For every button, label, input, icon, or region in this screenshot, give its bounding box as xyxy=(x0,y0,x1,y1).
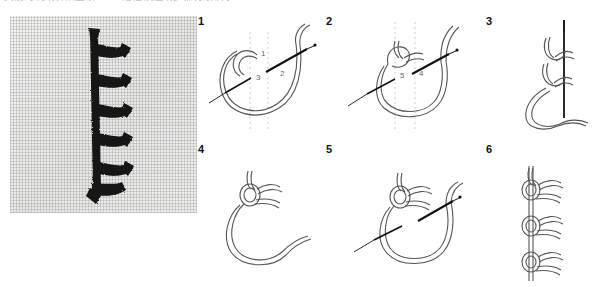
knot-body xyxy=(240,171,282,208)
diagram-step-5: 5 xyxy=(322,142,472,287)
needle-upper xyxy=(266,43,317,72)
knot-loops xyxy=(526,37,588,129)
thread-inner-loop xyxy=(233,51,257,76)
stitch-photo-thread xyxy=(10,16,197,213)
step-1-artwork: 1 2 3 xyxy=(195,14,325,140)
diagram-step-1: 1 xyxy=(195,14,325,140)
header-caption: 美丽的刺绣针法图解 —— 结粒锁边绣步骤分解演示 xyxy=(4,0,334,3)
thread-loop xyxy=(376,61,447,117)
diagram-step-3: 3 xyxy=(476,14,592,140)
step-5-artwork xyxy=(322,142,472,287)
knot-body xyxy=(387,41,424,67)
label-2: 2 xyxy=(280,69,285,78)
knot-1 xyxy=(522,168,563,203)
thread-tails xyxy=(295,24,310,45)
diagram-step-4: 4 xyxy=(190,142,320,287)
tutorial-page: 美丽的刺绣针法图解 —— 结粒锁边绣步骤分解演示 xyxy=(0,0,592,287)
knot-3 xyxy=(522,252,563,281)
step-4-artwork xyxy=(190,142,320,287)
label-1: 1 xyxy=(261,49,266,58)
thread-loop xyxy=(226,204,311,265)
step-6-artwork xyxy=(476,142,592,287)
knot-2 xyxy=(522,216,563,239)
thread-loop xyxy=(380,202,453,264)
knot-body xyxy=(390,173,432,210)
diagram-step-6: 6 xyxy=(476,142,592,287)
label-3: 3 xyxy=(256,73,261,82)
embroidered-stitch-sample xyxy=(10,16,197,213)
step-2-artwork: 5 4 xyxy=(322,14,472,140)
label-5: 5 xyxy=(400,71,405,80)
needle-lower xyxy=(348,79,395,106)
label-4: 4 xyxy=(419,69,424,78)
needle-lower xyxy=(354,226,402,252)
diagram-step-2: 2 xyxy=(322,14,472,140)
step-3-artwork xyxy=(476,14,592,140)
